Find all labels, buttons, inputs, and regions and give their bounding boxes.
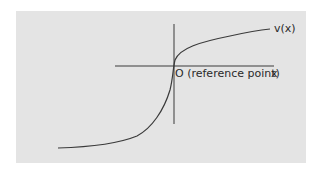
origin-label: O (reference point): [175, 68, 280, 79]
x-axis-label: x: [271, 68, 278, 79]
v-of-x-curve: [58, 29, 270, 148]
curve-label: v(x): [274, 23, 296, 34]
